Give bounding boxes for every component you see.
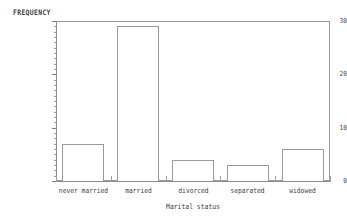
- y-axis-minor-tick: [54, 37, 56, 38]
- y-axis-minor-tick: [54, 80, 56, 81]
- y-axis-title: FREQUENCY: [13, 8, 51, 17]
- y-axis-minor-tick: [54, 106, 56, 107]
- y-axis-minor-tick: [54, 85, 56, 86]
- y-axis-minor-tick: [54, 90, 56, 91]
- bar: [282, 149, 324, 181]
- x-axis-category-label: separated: [220, 186, 275, 194]
- y-axis-tick-label: 30: [309, 18, 347, 25]
- y-axis-minor-tick: [54, 170, 56, 171]
- y-axis-minor-tick: [54, 144, 56, 145]
- y-axis-minor-tick: [54, 42, 56, 43]
- y-axis-minor-tick: [54, 138, 56, 139]
- y-axis-minor-tick: [54, 53, 56, 54]
- y-axis-minor-tick: [54, 154, 56, 155]
- y-axis-minor-tick: [54, 58, 56, 59]
- y-axis-minor-tick: [54, 112, 56, 113]
- x-axis-category-label: widowed: [275, 186, 330, 194]
- y-axis-major-tick: [52, 128, 56, 129]
- x-axis-line: [56, 181, 331, 182]
- x-axis-category-label: never married: [56, 186, 111, 194]
- y-axis-minor-tick: [54, 149, 56, 150]
- y-axis-line: [56, 21, 57, 182]
- x-axis-category-label: divorced: [166, 186, 221, 194]
- y-axis-minor-tick: [54, 122, 56, 123]
- y-axis-minor-tick: [54, 160, 56, 161]
- x-axis-tick: [56, 176, 57, 182]
- x-axis-title: Marital status: [56, 202, 330, 211]
- y-axis-minor-tick: [54, 133, 56, 134]
- x-axis-tick: [220, 176, 221, 182]
- y-axis-minor-tick: [54, 165, 56, 166]
- y-axis-minor-tick: [54, 96, 56, 97]
- x-axis-tick: [330, 176, 331, 182]
- x-axis-tick: [111, 176, 112, 182]
- x-axis-tick: [275, 176, 276, 182]
- bar: [62, 144, 104, 181]
- y-axis-tick-label: 20: [309, 71, 347, 78]
- y-axis-minor-tick: [54, 26, 56, 27]
- y-axis-minor-tick: [54, 32, 56, 33]
- y-axis-minor-tick: [54, 101, 56, 102]
- y-axis-major-tick: [52, 74, 56, 75]
- bar: [227, 165, 269, 181]
- bar-chart: FREQUENCY 0102030 never marriedmarrieddi…: [0, 0, 347, 221]
- y-axis-major-tick: [52, 21, 56, 22]
- x-axis-category-label: married: [111, 186, 166, 194]
- y-axis-minor-tick: [54, 69, 56, 70]
- y-axis-minor-tick: [54, 117, 56, 118]
- bar: [172, 160, 214, 181]
- y-axis-tick-label: 10: [309, 125, 347, 132]
- bar: [117, 26, 159, 181]
- y-axis-minor-tick: [54, 48, 56, 49]
- y-axis-minor-tick: [54, 64, 56, 65]
- x-axis-tick: [166, 176, 167, 182]
